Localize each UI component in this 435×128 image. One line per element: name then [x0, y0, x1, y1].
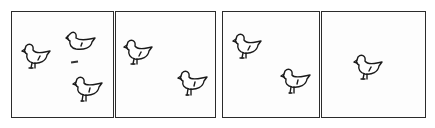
chick-icon	[122, 38, 154, 66]
chick-icon	[279, 67, 311, 95]
chick-icon	[71, 75, 103, 103]
chick-icon	[20, 42, 52, 70]
chick-icon	[352, 53, 384, 81]
panel-3	[222, 11, 320, 118]
chick-icon	[231, 32, 263, 60]
chick-icon	[64, 30, 96, 58]
chick-icon	[176, 69, 208, 97]
